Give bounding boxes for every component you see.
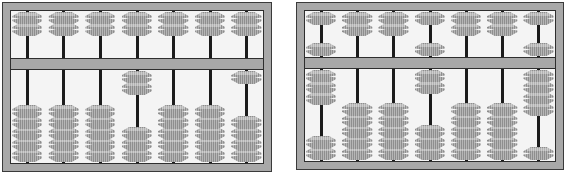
bead-lower-rod7-bar-4[interactable] xyxy=(524,103,554,116)
bead-lower-rod2-bottom-5[interactable] xyxy=(49,105,79,118)
bead-lower-rod6-bottom-5[interactable] xyxy=(488,103,518,116)
bead-lower-rod4-bottom-3[interactable] xyxy=(122,127,152,140)
bead-upper-rod2-top-2[interactable] xyxy=(49,23,79,36)
bead-lower-rod4-bottom-3[interactable] xyxy=(415,125,445,138)
right-abacus-reckoning-bar xyxy=(305,57,555,69)
bead-upper-rod6-top-2[interactable] xyxy=(195,23,225,36)
abacus-scene xyxy=(0,0,570,175)
bead-lower-rod1-bottom-5[interactable] xyxy=(12,105,42,118)
bead-lower-rod7-bottom-4[interactable] xyxy=(232,116,262,129)
right-abacus-upper-deck xyxy=(305,11,555,57)
left-abacus-lower-deck xyxy=(11,70,263,163)
right-abacus-frame xyxy=(304,10,556,162)
bead-lower-rod3-bottom-5[interactable] xyxy=(85,105,115,118)
bead-lower-rod1-bottom-2[interactable] xyxy=(306,136,336,149)
bead-upper-rod3-top-2[interactable] xyxy=(85,23,115,36)
bead-lower-rod5-bottom-5[interactable] xyxy=(451,103,481,116)
left-abacus-upper-deck xyxy=(11,11,263,58)
bead-lower-rod5-bottom-5[interactable] xyxy=(159,105,189,118)
bead-lower-rod6-bottom-5[interactable] xyxy=(195,105,225,118)
bead-upper-rod4-bar-1[interactable] xyxy=(415,43,445,56)
bead-lower-rod7-bottom-1[interactable] xyxy=(524,147,554,160)
left-abacus-frame xyxy=(10,10,264,164)
bead-upper-rod7-top-1[interactable] xyxy=(524,12,554,25)
bead-upper-rod3-top-2[interactable] xyxy=(379,23,409,36)
bead-upper-rod4-top-1[interactable] xyxy=(415,12,445,25)
bead-lower-rod7-bar-1[interactable] xyxy=(232,71,262,84)
bead-upper-rod1-top-2[interactable] xyxy=(12,23,42,36)
bead-lower-rod4-bar-2[interactable] xyxy=(415,81,445,94)
left-abacus xyxy=(2,2,272,172)
bead-lower-rod3-bottom-5[interactable] xyxy=(379,103,409,116)
bead-lower-rod4-bar-2[interactable] xyxy=(122,82,152,95)
bead-upper-rod7-top-2[interactable] xyxy=(232,23,262,36)
bead-upper-rod1-bar-1[interactable] xyxy=(306,43,336,56)
bead-upper-rod6-top-2[interactable] xyxy=(488,23,518,36)
bead-upper-rod2-top-2[interactable] xyxy=(343,23,373,36)
bead-upper-rod7-bar-1[interactable] xyxy=(524,43,554,56)
bead-lower-rod1-bar-3[interactable] xyxy=(306,92,336,105)
bead-upper-rod5-top-2[interactable] xyxy=(159,23,189,36)
bead-upper-rod5-top-2[interactable] xyxy=(451,23,481,36)
right-abacus xyxy=(296,2,564,170)
bead-upper-rod1-top-1[interactable] xyxy=(306,12,336,25)
right-abacus-lower-deck xyxy=(305,69,555,161)
bead-upper-rod4-top-2[interactable] xyxy=(122,23,152,36)
left-abacus-reckoning-bar xyxy=(11,58,263,70)
bead-lower-rod2-bottom-5[interactable] xyxy=(343,103,373,116)
